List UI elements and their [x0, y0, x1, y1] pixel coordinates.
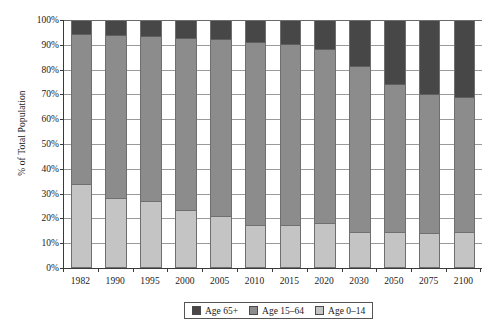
bar-segment-age-65-plus[interactable]: [455, 21, 475, 97]
legend-label: Age 15–64: [262, 306, 304, 316]
bar-slot: [64, 20, 99, 268]
x-tick-cell: [237, 268, 272, 273]
stacked-bar[interactable]: [245, 20, 267, 268]
bar-segment-age-0-14[interactable]: [385, 232, 405, 267]
bar-segment-age-0-14[interactable]: [420, 233, 440, 267]
bar-segment-age-15-64[interactable]: [315, 49, 335, 223]
bar-segment-age-15-64[interactable]: [385, 84, 405, 231]
bar-slot: [377, 20, 412, 268]
legend-item[interactable]: Age 0–14: [315, 306, 365, 316]
bar-segment-age-15-64[interactable]: [106, 35, 126, 198]
bar-segment-age-65-plus[interactable]: [385, 21, 405, 84]
y-axis-title: % of Total Population: [17, 33, 27, 233]
bar-slot: [412, 20, 447, 268]
bar-segment-age-65-plus[interactable]: [315, 21, 335, 49]
bar-slot: [308, 20, 343, 268]
x-tick-mark: [307, 268, 308, 272]
x-tick-cell: [63, 268, 98, 273]
legend-swatch-icon: [192, 306, 201, 315]
y-tick-label: 50%: [42, 139, 59, 149]
bar-segment-age-65-plus[interactable]: [420, 21, 440, 94]
stacked-bar[interactable]: [210, 20, 232, 268]
bar-slot: [203, 20, 238, 268]
bar-segment-age-15-64[interactable]: [72, 34, 92, 184]
legend-label: Age 0–14: [328, 306, 365, 316]
legend-item[interactable]: Age 65+: [192, 306, 238, 316]
bar-segment-age-0-14[interactable]: [176, 210, 196, 267]
stacked-bar[interactable]: [454, 20, 476, 268]
bar-segment-age-15-64[interactable]: [141, 36, 161, 201]
x-tick-mark: [342, 268, 343, 272]
bar-segment-age-0-14[interactable]: [281, 225, 301, 267]
bar-segment-age-65-plus[interactable]: [176, 21, 196, 38]
legend-swatch-icon: [315, 306, 324, 315]
bars-layer: [64, 20, 482, 268]
bar-slot: [273, 20, 308, 268]
bar-segment-age-65-plus[interactable]: [246, 21, 266, 42]
bar-slot: [134, 20, 169, 268]
x-tick-mark: [376, 268, 377, 272]
bar-segment-age-15-64[interactable]: [350, 66, 370, 232]
bar-segment-age-15-64[interactable]: [246, 42, 266, 225]
y-tick-label: 30%: [42, 189, 59, 199]
x-tick-cell: [307, 268, 342, 273]
chart-legend: Age 65+Age 15–64Age 0–14: [184, 302, 373, 319]
bar-segment-age-65-plus[interactable]: [281, 21, 301, 44]
x-tick-label: 1995: [133, 276, 168, 286]
legend-label: Age 65+: [205, 306, 238, 316]
x-tick-label: 2050: [376, 276, 411, 286]
x-tick-label: 2010: [237, 276, 272, 286]
x-tick-mark: [237, 268, 238, 272]
x-tick-mark: [480, 268, 481, 272]
x-tick-label: 1982: [63, 276, 98, 286]
bar-segment-age-15-64[interactable]: [455, 97, 475, 232]
legend-item[interactable]: Age 15–64: [249, 306, 304, 316]
stacked-bar[interactable]: [419, 20, 441, 268]
bar-segment-age-65-plus[interactable]: [141, 21, 161, 36]
bar-segment-age-15-64[interactable]: [281, 44, 301, 225]
x-tick-label: 2005: [202, 276, 237, 286]
bar-segment-age-0-14[interactable]: [350, 232, 370, 267]
bar-slot: [99, 20, 134, 268]
bar-segment-age-15-64[interactable]: [176, 38, 196, 210]
y-tick-label: 10%: [42, 238, 59, 248]
x-tick-label: 2100: [446, 276, 481, 286]
stacked-bar[interactable]: [384, 20, 406, 268]
bar-segment-age-65-plus[interactable]: [72, 21, 92, 34]
stacked-bar[interactable]: [140, 20, 162, 268]
x-tick-mark: [167, 268, 168, 272]
bar-segment-age-0-14[interactable]: [211, 216, 231, 267]
x-tick-label: 2075: [411, 276, 446, 286]
bar-segment-age-15-64[interactable]: [420, 94, 440, 233]
stacked-bar[interactable]: [175, 20, 197, 268]
x-tick-mark: [446, 268, 447, 272]
bar-segment-age-65-plus[interactable]: [106, 21, 126, 35]
y-tick-label: 100%: [37, 15, 59, 25]
x-tick-mark: [202, 268, 203, 272]
bar-segment-age-0-14[interactable]: [315, 223, 335, 267]
x-tick-cell: [202, 268, 237, 273]
x-tick-label: 2030: [342, 276, 377, 286]
x-tick-label: 1990: [98, 276, 133, 286]
x-tick-cell: [342, 268, 377, 273]
bar-segment-age-65-plus[interactable]: [350, 21, 370, 66]
stacked-bar[interactable]: [71, 20, 93, 268]
x-tick-mark: [411, 268, 412, 272]
y-tick-label: 20%: [42, 213, 59, 223]
y-tick-label: 0%: [46, 263, 59, 273]
stacked-bar[interactable]: [349, 20, 371, 268]
bar-segment-age-65-plus[interactable]: [211, 21, 231, 39]
x-tick-cell: [98, 268, 133, 273]
stacked-bar[interactable]: [280, 20, 302, 268]
stacked-bar[interactable]: [314, 20, 336, 268]
bar-segment-age-0-14[interactable]: [455, 232, 475, 267]
bar-segment-age-15-64[interactable]: [211, 39, 231, 216]
bar-segment-age-0-14[interactable]: [72, 184, 92, 267]
bar-segment-age-0-14[interactable]: [246, 225, 266, 267]
stacked-bar[interactable]: [105, 20, 127, 268]
x-tick-label: 2020: [307, 276, 342, 286]
y-tick-label: 40%: [42, 164, 59, 174]
bar-segment-age-0-14[interactable]: [106, 198, 126, 267]
bar-slot: [343, 20, 378, 268]
bar-segment-age-0-14[interactable]: [141, 201, 161, 267]
